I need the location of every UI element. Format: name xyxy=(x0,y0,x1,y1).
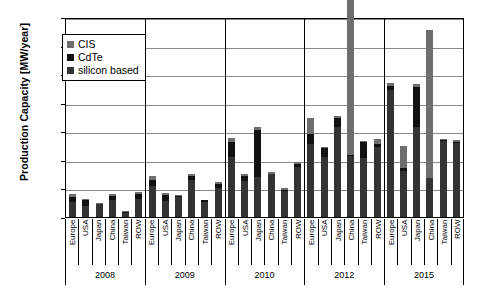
x-axis-tick-label: Taiwan xyxy=(359,220,370,266)
stacked-bar[interactable] xyxy=(440,139,447,217)
stacked-bar[interactable] xyxy=(175,195,182,217)
bar-slot xyxy=(251,19,264,217)
bar-segment xyxy=(268,174,275,217)
x-axis-tick-label: USA xyxy=(319,220,330,266)
x-axis-tick-label: Taiwan xyxy=(119,220,130,266)
bar-segment xyxy=(201,202,208,217)
bar-segment xyxy=(254,130,261,177)
bar-slot xyxy=(212,19,225,217)
y-axis-tick-mark xyxy=(61,189,65,190)
bar-segment xyxy=(281,191,288,217)
bar-slot xyxy=(423,19,436,217)
bar-segment xyxy=(122,213,129,217)
bar-segment xyxy=(228,157,235,217)
bar-slot xyxy=(291,19,304,217)
stacked-bar[interactable] xyxy=(453,140,460,217)
bar-slot xyxy=(278,19,291,217)
bar-segment xyxy=(188,180,195,217)
year-label-2010: 2010 xyxy=(225,265,305,287)
chart-figure: Production Capacity [MW/year] 0100020003… xyxy=(0,0,480,301)
chart-legend: CISCdTesilicon based xyxy=(62,34,146,81)
stacked-bar[interactable] xyxy=(426,30,433,217)
bar-slot xyxy=(265,19,278,217)
bar-segment xyxy=(334,127,341,217)
bar-segment xyxy=(307,144,314,217)
bar-segment xyxy=(426,30,433,177)
stacked-bar[interactable] xyxy=(400,146,407,217)
stacked-bar[interactable] xyxy=(188,174,195,217)
stacked-bar[interactable] xyxy=(96,203,103,217)
stacked-bar[interactable] xyxy=(149,176,156,217)
stacked-bar[interactable] xyxy=(122,211,129,217)
stacked-bar[interactable] xyxy=(241,174,248,217)
stacked-bar[interactable] xyxy=(321,147,328,217)
x-axis-tick-label: ROW xyxy=(133,220,144,266)
legend-item-cdte: CdTe xyxy=(67,51,139,64)
stacked-bar[interactable] xyxy=(228,138,235,217)
bar-segment xyxy=(347,156,354,217)
stacked-bar[interactable] xyxy=(109,194,116,217)
bar-segment xyxy=(135,199,142,217)
bar-segment xyxy=(453,143,460,217)
stacked-bar[interactable] xyxy=(82,199,89,217)
x-axis-tick-label: ROW xyxy=(452,220,463,266)
bar-segment xyxy=(374,147,381,217)
stacked-bar[interactable] xyxy=(135,192,142,217)
bar-slot xyxy=(145,19,158,217)
bar-segment xyxy=(307,134,314,144)
stacked-bar[interactable] xyxy=(294,162,301,217)
stacked-bar[interactable] xyxy=(215,182,222,217)
legend-swatch-icon xyxy=(67,54,74,61)
stacked-bar[interactable] xyxy=(413,84,420,217)
year-label-2008: 2008 xyxy=(65,265,145,287)
y-axis-tick-mark xyxy=(61,218,65,219)
legend-label: CdTe xyxy=(78,52,103,63)
year-label-2009: 2009 xyxy=(145,265,225,287)
stacked-bar[interactable] xyxy=(360,141,367,217)
stacked-bar[interactable] xyxy=(281,188,288,217)
x-axis-tick-label: USA xyxy=(239,220,250,266)
stacked-bar[interactable] xyxy=(254,127,261,217)
bar-segment xyxy=(175,197,182,217)
y-axis-tick-mark xyxy=(61,18,65,19)
x-axis-tick-label: ROW xyxy=(212,220,223,266)
x-axis-tick-label: Japan xyxy=(93,220,104,266)
stacked-bar[interactable] xyxy=(347,0,354,217)
bar-segment xyxy=(254,177,261,217)
stacked-bar[interactable] xyxy=(201,200,208,217)
x-axis-tick-label: Europe xyxy=(385,220,396,266)
bar-slot xyxy=(159,19,172,217)
stacked-bar[interactable] xyxy=(268,172,275,217)
stacked-bar[interactable] xyxy=(69,194,76,217)
year-group-2012 xyxy=(304,19,383,217)
x-axis-tick-label: USA xyxy=(79,220,90,266)
bar-slot xyxy=(238,19,251,217)
x-axis-tick-label: Europe xyxy=(66,220,77,266)
bar-segment xyxy=(400,171,407,217)
bar-segment xyxy=(307,118,314,134)
x-axis-tick-label: Japan xyxy=(412,220,423,266)
legend-swatch-icon xyxy=(67,41,74,48)
bar-segment xyxy=(387,90,394,217)
legend-label: silicon based xyxy=(78,65,139,76)
x-axis-tick-label: Taiwan xyxy=(439,220,450,266)
bar-segment xyxy=(149,186,156,217)
year-group-2015 xyxy=(384,19,463,217)
stacked-bar[interactable] xyxy=(162,193,169,217)
bar-segment xyxy=(334,118,341,127)
year-group-2010 xyxy=(225,19,304,217)
bar-slot xyxy=(370,19,383,217)
year-separator xyxy=(384,263,385,285)
bar-segment xyxy=(69,202,76,217)
bar-slot xyxy=(384,19,397,217)
stacked-bar[interactable] xyxy=(387,83,394,217)
stacked-bar[interactable] xyxy=(307,118,314,217)
legend-swatch-icon xyxy=(67,67,74,74)
bar-slot xyxy=(344,19,357,217)
y-axis-tick-mark xyxy=(61,104,65,105)
stacked-bar[interactable] xyxy=(374,139,381,217)
stacked-bar[interactable] xyxy=(334,116,341,217)
bar-segment xyxy=(413,127,420,217)
bar-slot xyxy=(198,19,211,217)
year-label-2012: 2012 xyxy=(304,265,384,287)
